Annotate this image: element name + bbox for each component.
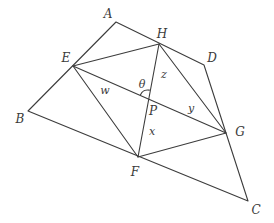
angle-label-theta: θ <box>139 79 146 90</box>
point-label-p: P <box>149 105 157 117</box>
vertex-label-a: A <box>104 8 113 20</box>
vertex-label-d: D <box>207 52 217 64</box>
theta-angle-arc <box>141 90 150 95</box>
geometry-diagram <box>0 0 274 223</box>
vertex-label-h: H <box>157 28 167 40</box>
quadrilateral-ehgf <box>73 44 226 157</box>
segment-label-w: w <box>100 85 109 96</box>
diagonal-hf <box>138 44 159 157</box>
diagonal-eg <box>73 66 226 133</box>
vertex-label-f: F <box>131 166 139 178</box>
segment-label-z: z <box>161 69 167 80</box>
segment-label-x: x <box>149 126 155 137</box>
segment-label-y: y <box>188 103 194 114</box>
vertex-label-e: E <box>62 52 71 64</box>
vertex-label-g: G <box>235 126 245 138</box>
vertex-label-b: B <box>16 113 25 125</box>
vertex-label-c: C <box>251 204 260 216</box>
